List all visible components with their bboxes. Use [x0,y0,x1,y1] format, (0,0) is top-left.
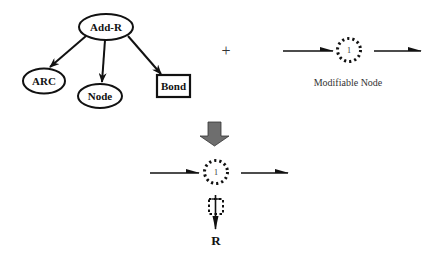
diagram-canvas: Add-R ARC Node Bond + 1 Modifiable Node … [0,0,439,262]
edge-add-r-to-bond [128,36,161,74]
node-add-r: Add-R [79,14,133,40]
substituent-label: R [211,233,221,248]
modifiable-node-caption: Modifiable Node [314,77,383,88]
modifiable-node-number: 1 [347,46,351,55]
node-arc-label: ARC [32,75,56,87]
edge-add-r-to-arc [50,36,86,67]
result-group: 1 R [150,161,288,249]
node-bond: Bond [157,75,190,97]
edge-add-r-to-node [102,40,105,82]
node-add-r-label: Add-R [90,21,123,33]
modifiable-node-group: 1 Modifiable Node [283,39,421,89]
substituent-arrow-icon [213,216,219,230]
node-node-label: Node [88,90,113,102]
node-bond-label: Bond [161,80,186,92]
result-node-number: 1 [214,168,218,177]
node-arc: ARC [23,69,65,94]
plus-operator: + [221,42,230,59]
transform-down-arrow-icon [200,122,229,146]
add-r-tree: Add-R ARC Node Bond [23,14,190,108]
node-node: Node [78,84,122,108]
